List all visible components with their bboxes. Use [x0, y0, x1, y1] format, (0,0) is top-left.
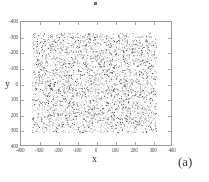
y-axis-title: y [5, 78, 10, 89]
x-tick-label: 300 [149, 147, 156, 153]
x-tick-label: -400 [16, 147, 25, 153]
x-tick-label: -100 [73, 147, 82, 153]
x-tick-label: -300 [35, 147, 44, 153]
panel-label: (a) [178, 154, 192, 170]
x-tick-label: 200 [130, 147, 137, 153]
x-tick-label: 100 [111, 147, 118, 153]
x-axis-title: x [92, 153, 97, 164]
scatter-figure-panel-a: -400-300-200-1000100200300400 -400-300-2… [0, 0, 209, 182]
x-tick-label: -200 [54, 147, 63, 153]
x-tick-label: 400 [168, 147, 175, 153]
